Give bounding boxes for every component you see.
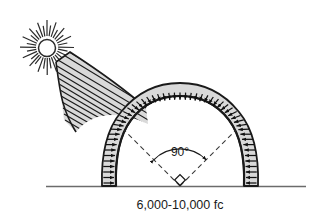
diagram-canvas: 90° 6,000-10,000 fc xyxy=(0,0,322,220)
figure-root: 90° 6,000-10,000 fc xyxy=(0,0,322,220)
angle-annotation: 90° xyxy=(125,131,236,187)
illuminance-caption: 6,000-10,000 fc xyxy=(137,198,224,212)
angle-label: 90° xyxy=(171,145,189,159)
right-angle-diamond-marker xyxy=(175,175,186,186)
